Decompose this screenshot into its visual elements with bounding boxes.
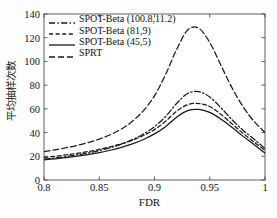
legend-line-sample [49, 14, 75, 24]
x-axis-tick-label: 0.9 [148, 182, 161, 193]
legend-item: SPOT-Beta (81,9) [49, 24, 199, 35]
x-axis-label: FDR [117, 196, 160, 208]
legend-label: SPRT [79, 47, 102, 58]
legend-label: SPOT-Beta (81,9) [79, 25, 151, 36]
legend-label: SPOT-Beta (45,5) [79, 36, 151, 47]
chart-legend: SPOT-Beta (100.8,11.2)SPOT-Beta (81,9)SP… [49, 13, 199, 59]
x-axis-label-wrap: FDR [0, 196, 277, 208]
x-axis-tick-label: 0.85 [90, 182, 108, 193]
legend-item: SPOT-Beta (45,5) [49, 36, 199, 47]
legend-item: SPOT-Beta (100.8,11.2) [49, 13, 199, 24]
legend-line-sample [49, 25, 75, 35]
legend-line-sample [49, 48, 75, 58]
legend-line-sample [49, 36, 75, 46]
x-axis-tick-label: 1 [262, 182, 267, 193]
chart-figure: 平均抽样次数 020406080100120140 0.80.850.90.95… [0, 0, 277, 218]
x-axis-tick-label: 0.95 [201, 182, 219, 193]
x-axis-tick-label: 0.8 [37, 182, 50, 193]
legend-label: SPOT-Beta (100.8,11.2) [79, 13, 175, 24]
legend-item: SPRT [49, 47, 199, 58]
